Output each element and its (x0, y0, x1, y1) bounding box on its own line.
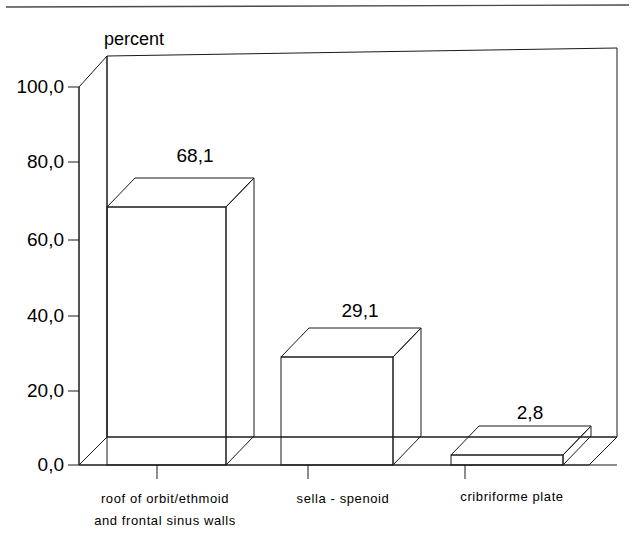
y-axis-title: percent (104, 29, 164, 49)
bar-2-front-face (451, 455, 563, 465)
bar-2-value-label: 2,8 (517, 402, 543, 423)
bar-chart-3d: 100,0 80,0 60,0 40,0 20,0 0,0 percent 68… (0, 0, 635, 533)
bar-series-0[interactable] (107, 178, 254, 465)
bar-series-1[interactable] (281, 328, 421, 465)
x-category-label-0-line-0: roof of orbit/ethmoid (101, 491, 229, 506)
chart-figure: 100,0 80,0 60,0 40,0 20,0 0,0 percent 68… (0, 0, 635, 533)
bar-series-2[interactable] (451, 426, 591, 465)
plot-right-floor-edge (589, 437, 617, 465)
plot-left-wall (79, 56, 107, 465)
page-top-rule (6, 5, 629, 7)
x-category-label-0-line-1: and frontal sinus walls (94, 513, 236, 528)
bar-0-side-face (226, 178, 254, 465)
x-category-label-2-line-0: cribriforme plate (460, 489, 563, 504)
x-category-label-1-line-0: sella - spenoid (297, 491, 390, 506)
plot-floor (79, 437, 617, 465)
bar-1-top-face (281, 328, 421, 357)
bar-1-side-face (393, 328, 421, 465)
y-tick-label-80: 80,0 (27, 151, 64, 172)
y-tick-label-100: 100,0 (16, 76, 64, 97)
bar-1-front-face (281, 357, 393, 465)
bar-0-front-face (107, 207, 226, 465)
bar-0-top-face (107, 178, 254, 207)
x-axis-ticks (157, 465, 465, 479)
y-axis-ticks (68, 87, 79, 465)
y-tick-label-20: 20,0 (27, 380, 64, 401)
bar-2-side-face (563, 426, 591, 465)
y-axis-tick-labels: 100,0 80,0 60,0 40,0 20,0 0,0 (16, 76, 64, 475)
plot-back-wall (107, 48, 617, 437)
x-axis-category-labels: roof of orbit/ethmoid and frontal sinus … (94, 489, 564, 528)
bar-1-value-label: 29,1 (342, 300, 379, 321)
bar-0-value-label: 68,1 (177, 145, 214, 166)
y-tick-label-60: 60,0 (27, 229, 64, 250)
y-tick-label-40: 40,0 (27, 305, 64, 326)
bar-2-top-face (451, 426, 591, 455)
y-tick-label-0: 0,0 (38, 454, 64, 475)
